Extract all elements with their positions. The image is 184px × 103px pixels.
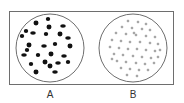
particle [137,21,139,23]
panel-a-label: A [40,89,60,100]
particle [36,53,40,57]
particle [55,61,61,65]
particle [47,25,52,30]
particle [109,46,111,48]
particle [135,62,137,64]
particle [53,42,57,46]
particle [120,40,122,42]
particle [115,32,117,34]
particle [20,34,24,38]
particle [34,70,39,75]
particle [125,33,127,35]
particle [29,62,33,66]
particle [30,31,36,35]
particle [118,47,120,49]
particle [129,68,131,70]
particle [52,70,58,74]
outline-circle [99,14,167,82]
particle [154,50,156,52]
particle [24,29,28,33]
particle [111,39,113,41]
particle [116,60,118,62]
particle [127,20,129,22]
particle [145,23,147,25]
particle [34,21,39,26]
particle [126,74,128,76]
panel-b-label: B [123,89,143,100]
particle [147,69,149,71]
particle [66,60,70,64]
particle [58,32,63,37]
outline-circle [16,14,84,82]
particle [127,48,129,50]
particle [43,60,48,65]
particle [48,64,53,69]
particle [21,53,27,57]
particle [136,75,138,77]
particle [27,43,32,48]
particle [125,61,127,63]
diagram-canvas [0,0,184,103]
particle [141,56,143,58]
particle [135,34,137,36]
particle [139,41,141,43]
particle [121,26,123,28]
particle [149,42,151,44]
particle [132,55,134,57]
particle [68,44,73,49]
particle [141,28,143,30]
particle [144,63,146,65]
particle [131,27,133,29]
particle [136,48,138,50]
particle [138,69,140,71]
particle [46,17,50,21]
particle [157,43,159,45]
particle [111,58,113,60]
particle [133,32,135,34]
particle [44,32,48,36]
particle [153,62,155,64]
particle [41,44,47,48]
particle [154,36,156,38]
particle [122,54,124,56]
particle [65,36,71,40]
particle [157,56,159,58]
particle [145,49,147,51]
particle [159,49,161,51]
particle [150,57,152,59]
panel-a-circle [16,14,84,82]
particle [25,48,29,52]
particle [129,41,131,43]
particle [120,67,122,69]
panel-b-circle [99,14,167,82]
particle [113,53,115,55]
particle [61,54,67,58]
particle [149,29,151,31]
particle [60,24,66,28]
particle [145,35,147,37]
particle [49,52,54,57]
